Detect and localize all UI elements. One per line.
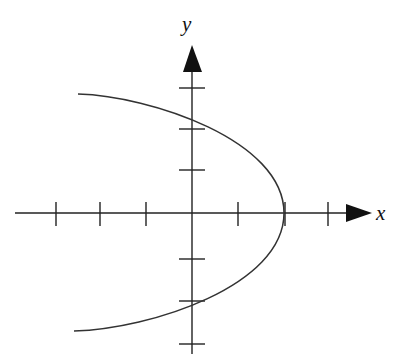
x-axis-arrow-icon bbox=[346, 204, 372, 222]
coordinate-graph: x y bbox=[0, 0, 396, 364]
y-axis-label: y bbox=[180, 12, 192, 36]
x-axis-label: x bbox=[375, 201, 386, 225]
y-axis-arrow-icon bbox=[183, 45, 202, 72]
